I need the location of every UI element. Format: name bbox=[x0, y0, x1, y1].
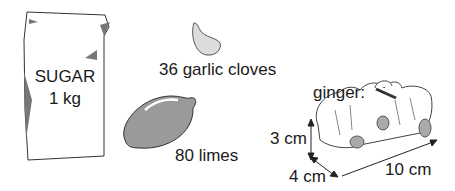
ginger-depth-label: 4 cm bbox=[289, 168, 326, 185]
sugar-brand: SUGAR bbox=[30, 66, 100, 88]
ginger-length-label: 10 cm bbox=[385, 161, 431, 178]
garlic-clove-icon bbox=[193, 23, 221, 55]
lime-icon bbox=[124, 96, 196, 148]
ginger-height-label: 3 cm bbox=[270, 130, 307, 147]
limes-label: 80 limes bbox=[175, 147, 238, 164]
garlic-label: 36 garlic cloves bbox=[159, 61, 276, 78]
ginger-title: ginger: bbox=[313, 84, 365, 101]
sugar-bag-text: SUGAR 1 kg bbox=[30, 66, 100, 110]
sugar-weight: 1 kg bbox=[30, 88, 100, 110]
